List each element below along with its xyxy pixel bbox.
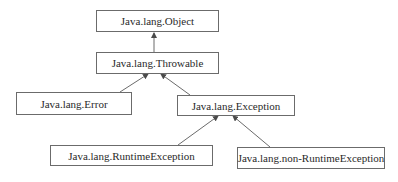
edge-nonruntime-to-exception [233,116,270,147]
node-exception-label: Java.lang.Exception [192,100,281,112]
node-error-label: Java.lang.Error [40,98,107,110]
node-object-label: Java.lang.Object [121,15,194,27]
node-runtime-exception-label: Java.lang.RuntimeException [68,150,194,162]
edge-error-to-throwable [120,74,148,92]
node-object: Java.lang.Object [96,10,219,32]
class-hierarchy-diagram: Java.lang.Object Java.lang.Throwable Jav… [0,0,398,182]
node-throwable: Java.lang.Throwable [96,52,219,74]
node-non-runtime-exception: Java.lang.non-RuntimeException [237,147,385,169]
node-error: Java.lang.Error [16,92,132,115]
node-non-runtime-exception-label: Java.lang.non-RuntimeException [238,152,385,164]
node-throwable-label: Java.lang.Throwable [112,57,204,69]
edge-runtime-to-exception [178,116,218,145]
node-exception: Java.lang.Exception [177,95,295,116]
edge-exception-to-throwable [161,74,190,95]
node-runtime-exception: Java.lang.RuntimeException [50,145,213,166]
